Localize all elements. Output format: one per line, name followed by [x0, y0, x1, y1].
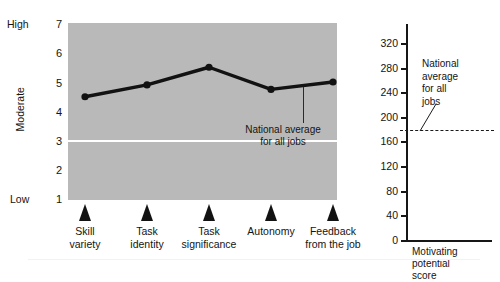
- r-tick-mark-280: [401, 68, 407, 70]
- national-average-leader-line-right: [418, 104, 440, 132]
- r-tick-40: 40: [364, 210, 398, 221]
- r-tick-mark-40: [401, 215, 407, 217]
- mps-label-line3: score: [412, 270, 494, 282]
- r-tick-320: 320: [364, 38, 398, 49]
- national-average-callout-right: National average for all jobs: [422, 58, 494, 108]
- r-tick-mark-240: [401, 92, 407, 94]
- r-tick-mark-320: [401, 43, 407, 45]
- x-arrow-task-identity: [141, 204, 153, 221]
- data-point: [143, 81, 150, 88]
- x-arrow-autonomy: [265, 204, 277, 221]
- job-characteristics-line-chart: 7 6 5 4 3 2 1 High Moderate Low Skill va…: [0, 0, 360, 272]
- national-average-leader-line-left: [303, 87, 304, 123]
- mps-label-line1: Motivating: [412, 246, 494, 258]
- r-tick-240: 240: [364, 87, 398, 98]
- r-tick-mark-160: [401, 141, 407, 143]
- r-tick-mark-80: [401, 191, 407, 193]
- x-label-task-significance-line2: significance: [161, 238, 257, 251]
- r-tick-mark-0: [401, 240, 407, 242]
- r-tick-0: 0: [364, 235, 398, 246]
- motivating-potential-score-chart: 320 280 240 200 160 120 80 40 0 National…: [360, 0, 500, 272]
- national-average-callout-right-line3: for all: [422, 83, 494, 96]
- national-average-dashed-line: [400, 130, 494, 131]
- data-point: [205, 64, 212, 71]
- r-tick-200: 200: [364, 112, 398, 123]
- r-tick-280: 280: [364, 63, 398, 74]
- national-average-callout-left-line2: for all jobs: [228, 136, 338, 148]
- bottom-divider: [28, 259, 480, 260]
- x-arrow-task-significance: [203, 204, 215, 221]
- r-tick-80: 80: [364, 186, 398, 197]
- right-y-axis-line: [406, 24, 408, 242]
- series-line: [85, 67, 333, 97]
- national-average-callout-right-line1: National: [422, 58, 494, 71]
- national-average-callout-left: National average for all jobs: [228, 124, 338, 147]
- x-arrow-skill-variety: [79, 204, 91, 221]
- r-tick-mark-120: [401, 166, 407, 168]
- motivating-potential-score-axis-label: Motivating potential score: [412, 246, 494, 282]
- national-average-callout-right-line4: jobs: [422, 96, 494, 109]
- series-markers: [81, 64, 336, 101]
- r-tick-120: 120: [364, 161, 398, 172]
- national-average-callout-right-line2: average: [422, 71, 494, 84]
- data-point: [81, 93, 88, 100]
- national-average-callout-left-line1: National average: [228, 124, 338, 136]
- x-arrow-feedback: [327, 204, 339, 221]
- r-tick-mark-200: [401, 117, 407, 119]
- data-point: [329, 78, 336, 85]
- r-tick-160: 160: [364, 136, 398, 147]
- data-point: [267, 86, 274, 93]
- right-x-axis-line: [406, 240, 492, 242]
